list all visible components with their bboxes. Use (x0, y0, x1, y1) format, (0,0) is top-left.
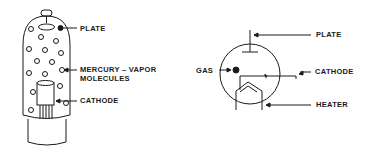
label-plate-right: PLATE (316, 30, 342, 39)
diagram-canvas (0, 0, 371, 159)
cathode-cylinder (37, 83, 54, 105)
label-plate-left: PLATE (80, 24, 106, 33)
label-gas: GAS (196, 66, 213, 75)
label-molecules: MOLECULES (80, 74, 130, 83)
mercury-tube-drawing (23, 10, 70, 145)
label-mercury-vapor: MERCURY – VAPOR (80, 65, 156, 74)
plate-disc (39, 24, 55, 30)
label-heater: HEATER (316, 100, 348, 109)
label-cathode-right: CATHODE (315, 67, 354, 76)
label-cathode-left: CATHODE (80, 96, 119, 105)
